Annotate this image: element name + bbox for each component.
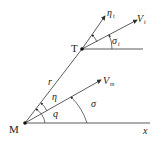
los-extension-arrow [82, 16, 105, 49]
target-lead-angle-sub: t [113, 13, 115, 19]
missile-lead-arc [41, 103, 47, 111]
target-lead-arc [92, 35, 97, 42]
target-label: T [71, 42, 78, 54]
target-velocity-sub: t [144, 19, 146, 25]
target-velocity-arrow [82, 20, 137, 49]
missile-point [23, 121, 27, 125]
diagram-canvas: M T r x V m V t η t σ t η q σ [0, 0, 160, 144]
missile-label: M [9, 123, 19, 135]
target-lead-angle-label: η [107, 7, 112, 18]
missile-target-geometry-diagram: M T r x V m V t η t σ t η q σ [0, 0, 160, 144]
x-axis-label: x [142, 125, 148, 136]
missile-heading-label: σ [91, 98, 97, 109]
missile-lead-angle-label: η [52, 91, 57, 102]
target-heading-sub: t [118, 41, 120, 47]
missile-velocity-sub: m [110, 81, 115, 87]
target-point [80, 47, 84, 51]
missile-velocity-arrow [25, 80, 101, 123]
los-angle-label: q [53, 108, 58, 119]
line-of-sight-label: r [48, 76, 52, 87]
missile-heading-arc [71, 97, 87, 123]
